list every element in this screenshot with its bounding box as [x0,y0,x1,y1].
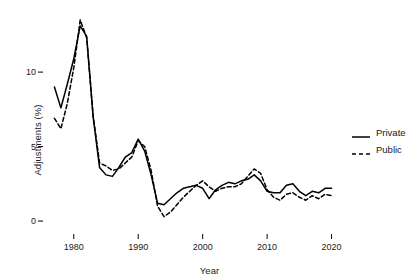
x-tick-label: 2020 [322,242,342,252]
legend-key-solid-icon [352,128,370,138]
legend-label: Private [376,128,406,138]
legend-item-public: Public [352,144,406,155]
tick-marks [38,72,332,239]
legend-item-private: Private [352,127,406,138]
series-lines [54,20,331,217]
x-tick-label: 1990 [128,242,148,252]
y-tick-label: 10 [14,67,36,77]
y-tick-label: 0 [14,216,36,226]
x-axis-title: Year [0,265,419,276]
x-tick-label: 2000 [193,242,213,252]
chart-legend: PrivatePublic [352,127,406,155]
x-tick-label: 2010 [257,242,277,252]
series-line-public [54,20,331,217]
y-axis-title: Adjustments (%) [32,104,43,175]
x-tick-label: 1980 [64,242,84,252]
series-line-private [54,26,331,205]
chart-figure: 0510 19801990200020102020 Adjustments (%… [0,0,419,279]
legend-label: Public [376,145,402,155]
legend-key-dashed-icon [352,145,370,155]
